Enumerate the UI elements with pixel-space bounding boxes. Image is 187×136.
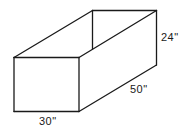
- front-face: [14, 58, 79, 112]
- top-right-receding-edge: [79, 11, 157, 58]
- top-rim: [14, 11, 157, 58]
- top-left-receding-edge: [14, 11, 93, 58]
- height-label: 24": [161, 31, 179, 43]
- width-label: 30": [39, 115, 57, 127]
- length-label: 50": [130, 83, 148, 95]
- side-and-interior: [79, 11, 157, 112]
- open-box-diagram: 24" 50" 30": [0, 0, 187, 136]
